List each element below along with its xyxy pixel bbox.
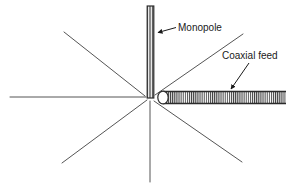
monopole-label: Monopole	[178, 22, 222, 33]
monopole-body	[147, 6, 154, 98]
radial-upper-right	[155, 34, 243, 95]
coax-end-cap	[158, 91, 168, 104]
coax-body	[163, 92, 286, 104]
coax-leader-line	[231, 63, 249, 89]
diagram-canvas: Monopole Coaxial feed	[0, 0, 299, 185]
monopole-rod	[147, 6, 154, 98]
radial-upper-left	[64, 32, 145, 96]
radial-lower-left	[62, 100, 147, 163]
radial-lower-right	[154, 101, 242, 162]
antenna-diagram: Monopole Coaxial feed	[0, 0, 299, 185]
ground-plane-radials	[10, 32, 243, 182]
monopole-leader-line	[158, 28, 176, 33]
coaxial-feed	[158, 91, 286, 104]
coaxial-feed-label: Coaxial feed	[222, 50, 278, 61]
